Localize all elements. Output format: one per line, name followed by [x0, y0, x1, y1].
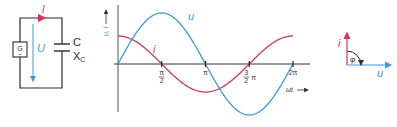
capacitor-label: C — [73, 36, 81, 48]
circuit: G ~ C XC U I — [13, 4, 85, 88]
current-label: I — [42, 4, 45, 15]
x-axis-label: ωt — [286, 86, 294, 93]
x-tick-label-suffix: π — [251, 74, 256, 81]
waveform-chart: u, i π2π32π2π u i ωt — [102, 5, 310, 115]
reactance-subscript: C — [80, 56, 85, 63]
y-axis-label-text: u, i — [102, 26, 109, 36]
phasor-i-label: i — [338, 37, 341, 49]
x-tick-label: 32 — [244, 69, 248, 84]
capacitor-ac-diagram: G ~ C XC U I u, i π2π32π2π u i ωt — [0, 0, 397, 127]
voltage-label: U — [37, 42, 45, 54]
phasor-angle-label: φ — [350, 55, 355, 64]
phasor-u-label: u — [377, 67, 383, 79]
x-tick-label: 2π — [289, 69, 298, 76]
x-tick-label: π2 — [159, 69, 164, 84]
phasor-diagram: φ u i — [338, 33, 391, 79]
x-tick-label: π — [203, 69, 208, 76]
series-u-label: u — [188, 10, 194, 22]
series-i-label: i — [153, 43, 156, 55]
reactance-label: XC — [73, 50, 85, 63]
generator-ac-symbol: ~ — [18, 51, 22, 57]
y-axis-label: u, i — [102, 26, 109, 36]
